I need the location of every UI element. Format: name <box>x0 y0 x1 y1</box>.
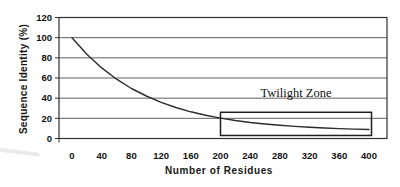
x-axis-title: Number of Residues <box>165 165 273 176</box>
plot-area: 0204060801001200408012016020024028032036… <box>0 0 400 187</box>
y-tick-label-20: 20 <box>41 113 52 124</box>
y-tick-label-100: 100 <box>36 32 52 43</box>
x-tick-label-320: 320 <box>302 150 318 161</box>
y-tick-label-0: 0 <box>47 133 52 144</box>
y-tick-label-120: 120 <box>36 12 52 23</box>
twilight-zone-box <box>221 112 372 135</box>
x-tick-label-80: 80 <box>126 150 137 161</box>
y-axis-title: Sequence Identity (%) <box>18 24 29 134</box>
x-tick-label-0: 0 <box>69 150 74 161</box>
x-tick-label-200: 200 <box>213 150 229 161</box>
y-tick-label-80: 80 <box>41 52 52 63</box>
x-tick-label-40: 40 <box>96 150 107 161</box>
x-tick-label-240: 240 <box>242 150 258 161</box>
twilight-zone-figure: 0204060801001200408012016020024028032036… <box>0 0 400 187</box>
twilight-zone-label: Twilight Zone <box>261 86 332 101</box>
y-tick-label-60: 60 <box>41 72 52 83</box>
y-tick-label-40: 40 <box>41 92 52 103</box>
x-tick-label-280: 280 <box>272 150 288 161</box>
x-tick-label-160: 160 <box>183 150 199 161</box>
x-tick-label-360: 360 <box>331 150 347 161</box>
x-tick-label-400: 400 <box>361 150 377 161</box>
x-tick-label-120: 120 <box>153 150 169 161</box>
